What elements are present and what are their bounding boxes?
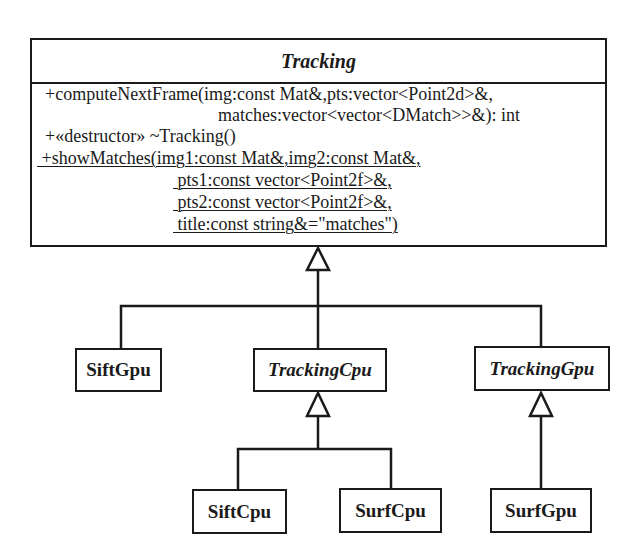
operation-showmatches: +showMatches(img1:const Mat&,img2:const …	[37, 148, 421, 170]
class-name-surfgpu: SurfGpu	[492, 490, 590, 531]
class-trackinggpu: TrackingGpu	[474, 346, 610, 391]
generalization-arrow-trackingcpu	[307, 393, 329, 416]
class-surfgpu: SurfGpu	[490, 488, 592, 533]
class-name-siftgpu: SiftGpu	[77, 350, 160, 390]
class-name-surfcpu: SurfCpu	[341, 490, 440, 531]
uml-class-diagram: Tracking +computeNextFrame(img:const Mat…	[0, 0, 639, 548]
class-trackingcpu: TrackingCpu	[253, 348, 387, 392]
class-name-tracking: Tracking	[32, 40, 605, 84]
class-name-siftcpu: SiftCpu	[194, 491, 285, 532]
class-siftgpu: SiftGpu	[75, 348, 162, 392]
operation-showmatches-pts2: pts2:const vector<Point2f>&,	[173, 192, 392, 214]
operation-showmatches-pts1: pts1:const vector<Point2f>&,	[173, 170, 392, 192]
generalization-arrow-trackinggpu	[530, 393, 552, 416]
operation-computenextframe: +computeNextFrame(img:const Mat&,pts:vec…	[45, 84, 493, 106]
operation-showmatches-title: title:const string&="matches")	[173, 214, 398, 236]
operation-computenextframe-cont: matches:vector<vector<DMatch>>&): int	[218, 105, 520, 127]
class-siftcpu: SiftCpu	[192, 489, 287, 534]
class-name-trackingcpu: TrackingCpu	[255, 350, 385, 390]
operation-destructor: +«destructor» ~Tracking()	[45, 126, 236, 148]
class-tracking: Tracking +computeNextFrame(img:const Mat…	[30, 38, 607, 247]
class-surfcpu: SurfCpu	[339, 488, 442, 533]
class-name-trackinggpu: TrackingGpu	[476, 348, 608, 389]
generalization-arrow-tracking	[307, 248, 329, 270]
